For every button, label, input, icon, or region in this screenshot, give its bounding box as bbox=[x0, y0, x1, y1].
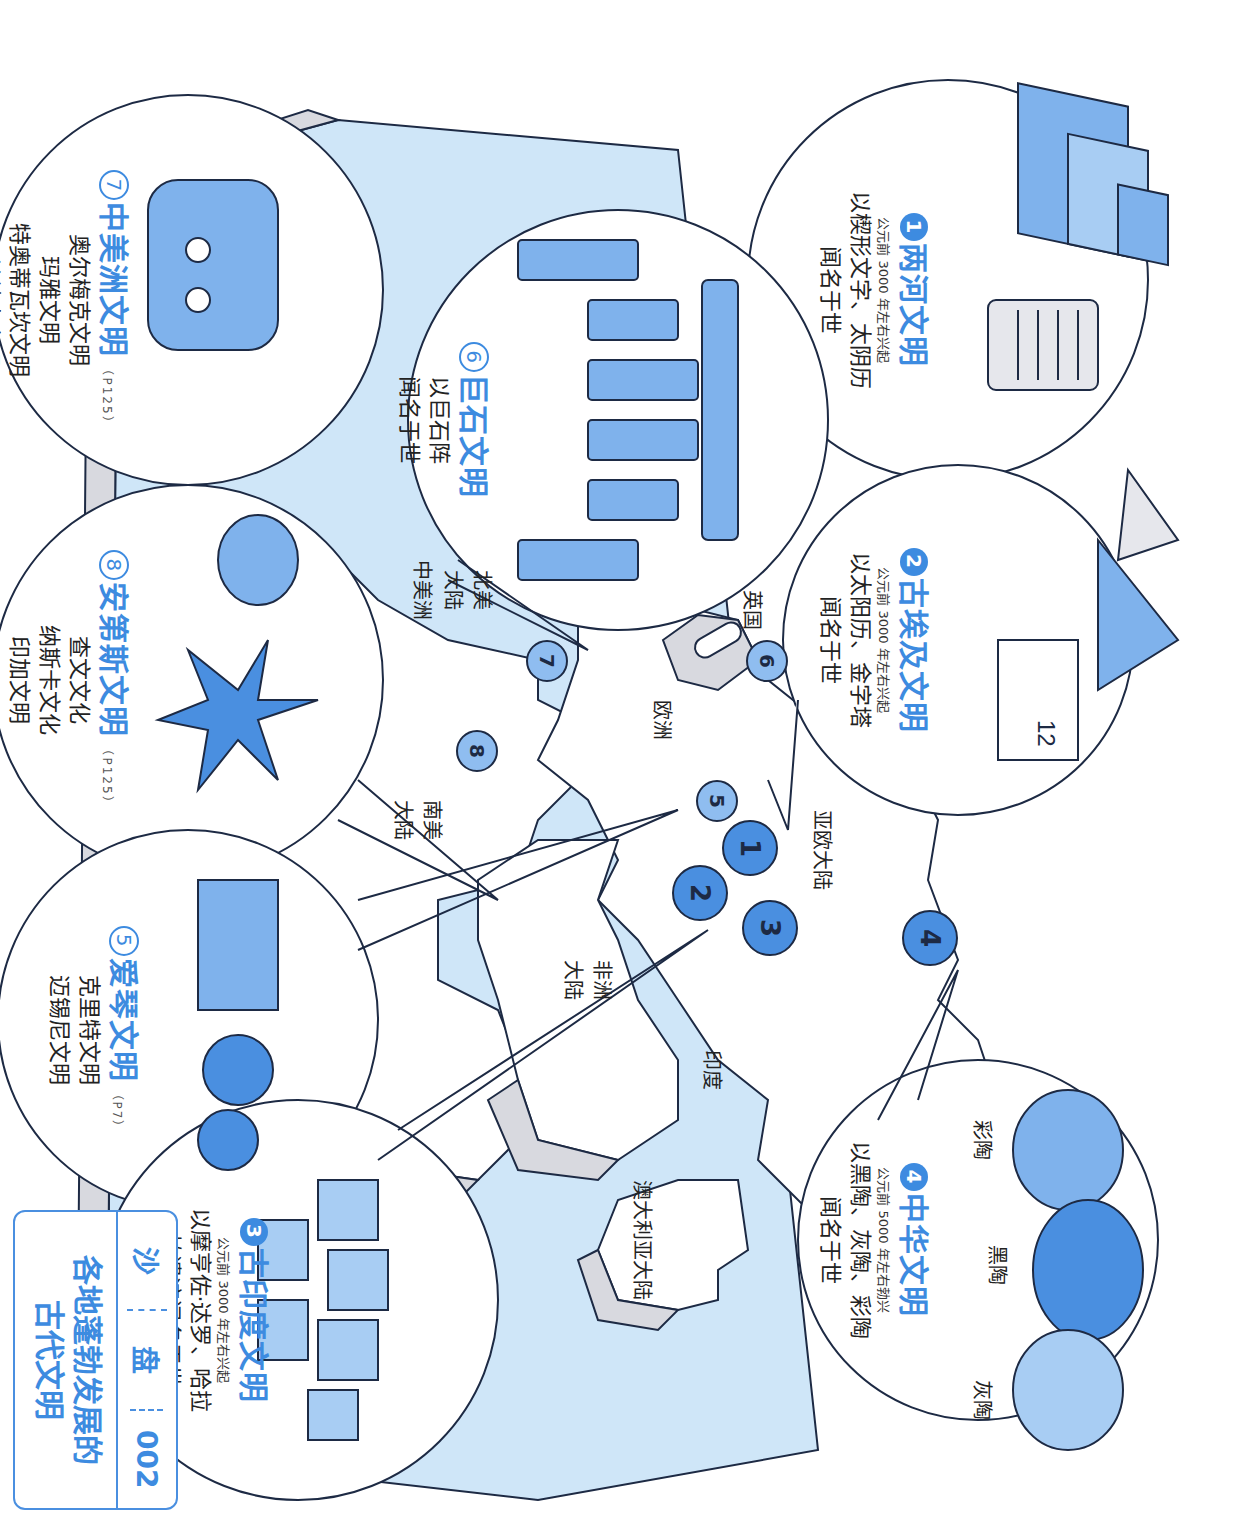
label-africa-line1: 非洲 bbox=[589, 960, 618, 1000]
civ-1-desc-1: 以楔形文字、太阴历 bbox=[845, 180, 875, 400]
civ-7-desc-3: 特奥蒂瓦坎文明 bbox=[4, 160, 34, 440]
civ-1-desc-2: 闻名于世 bbox=[815, 180, 845, 400]
label-sa-line1: 南美 bbox=[419, 800, 448, 840]
pottery-artwork bbox=[1013, 1090, 1143, 1450]
civ-3-desc-1: 以摩亨佐·达罗、哈拉 bbox=[185, 1160, 215, 1460]
svg-text:12: 12 bbox=[1033, 720, 1060, 747]
civ-8-title: 8安第斯文明（P125） bbox=[94, 540, 138, 820]
label-eurasia: 亚欧大陆 bbox=[809, 810, 838, 890]
series-number: 002 bbox=[131, 1409, 164, 1508]
civ-2-desc-2: 闻名于世 bbox=[815, 490, 845, 790]
civ-7-page-ref: （P125） bbox=[100, 363, 114, 429]
civ-4-title: 4中华文明 bbox=[894, 1090, 938, 1390]
label-na-line1: 北美 bbox=[469, 570, 498, 610]
label-central-america: 中美洲 bbox=[409, 560, 438, 620]
label-india: 印度 bbox=[699, 1050, 728, 1090]
rotated-page: 12 bbox=[0, 0, 1238, 1533]
label-australia: 澳大利亚大陆 bbox=[629, 1180, 658, 1300]
civ-5-block: 5爱琴文明（P7） 克里特文明 迈锡尼文明 bbox=[44, 900, 148, 1160]
civ-2-block: 2古埃及文明 公元前 3000 年左右兴起 以太阳历、金字塔 闻名于世 bbox=[815, 490, 938, 790]
civ-6-desc-1: 以巨石阵 bbox=[424, 320, 454, 520]
page-title: 各地蓬勃发展的 古代文明 bbox=[30, 1212, 116, 1508]
civ-1-block: 1两河文明 公元前 3000 年左右兴起 以楔形文字、太阴历 闻名于世 bbox=[815, 180, 938, 400]
title-card: 沙 盘 002 各地蓬勃发展的 古代文明 bbox=[13, 1210, 178, 1510]
civ-7-title: 7中美洲文明（P125） bbox=[94, 160, 138, 440]
series-char-1: 沙 bbox=[127, 1212, 167, 1309]
series-row: 沙 盘 002 bbox=[116, 1212, 176, 1508]
label-africa: 非洲大陆 bbox=[560, 960, 618, 1000]
label-na-line2: 大陆 bbox=[440, 570, 469, 610]
label-uk: 英国 bbox=[739, 590, 768, 630]
civ-2-desc-1: 以太阳历、金字塔 bbox=[845, 490, 875, 790]
map-pin-6[interactable]: 6 bbox=[746, 640, 788, 682]
civ-2-date: 公元前 3000 年左右兴起 bbox=[875, 490, 894, 790]
civ-4-date: 公元前 5000 年左右勃兴 bbox=[875, 1090, 894, 1390]
civ-4-block: 4中华文明 公元前 5000 年左右勃兴 以黑陶、灰陶、彩陶 闻名于世 bbox=[815, 1090, 938, 1390]
civ-6-number-icon: 6 bbox=[459, 342, 489, 372]
civ-2-number-icon: 2 bbox=[900, 548, 928, 576]
civ-6-title: 6巨石文明 bbox=[454, 320, 498, 520]
map-pin-2[interactable]: 2 bbox=[672, 865, 728, 921]
label-africa-line2: 大陆 bbox=[560, 960, 589, 1000]
civ-2-title: 2古埃及文明 bbox=[894, 490, 938, 790]
civ-4-desc-2: 闻名于世 bbox=[815, 1090, 845, 1390]
page-title-line2: 古代文明 bbox=[30, 1212, 68, 1508]
label-south-america: 南美大陆 bbox=[390, 800, 448, 840]
map-pin-4[interactable]: 4 bbox=[902, 910, 958, 966]
map-pin-8[interactable]: 8 bbox=[456, 730, 498, 772]
civ-5-desc-2: 迈锡尼文明 bbox=[44, 900, 74, 1160]
civ-7-block: 7中美洲文明（P125） 奥尔梅克文明 玛雅文明 特奥蒂瓦坎文明 阿兹特克文明 bbox=[0, 160, 138, 440]
map-pin-7[interactable]: 7 bbox=[526, 640, 568, 682]
map-pin-5[interactable]: 5 bbox=[696, 780, 738, 822]
label-sa-line2: 大陆 bbox=[390, 800, 419, 840]
civ-4-desc-1: 以黑陶、灰陶、彩陶 bbox=[845, 1090, 875, 1390]
civ-8-page-ref: （P125） bbox=[100, 743, 114, 809]
series-char-2: 盘 bbox=[127, 1309, 167, 1408]
pottery-label-painted: 彩陶 bbox=[969, 1120, 998, 1160]
civ-3-number-icon: 3 bbox=[240, 1218, 268, 1246]
civ-1-title: 1两河文明 bbox=[894, 180, 938, 400]
page-title-line1: 各地蓬勃发展的 bbox=[68, 1212, 106, 1508]
civ-8-block: 8安第斯文明（P125） 查文文化 纳斯卡文化 印加文明 bbox=[4, 540, 138, 820]
civ-1-number-icon: 1 bbox=[900, 213, 928, 241]
civ-7-number-icon: 7 bbox=[99, 170, 129, 200]
civ-5-title: 5爱琴文明（P7） bbox=[104, 900, 148, 1160]
civ-5-number-icon: 5 bbox=[109, 926, 139, 956]
civ-7-desc-1: 奥尔梅克文明 bbox=[64, 160, 94, 440]
olmec-head-artwork bbox=[148, 180, 278, 350]
civ-5-page-ref: （P7） bbox=[110, 1088, 124, 1135]
civ-7-desc-4: 阿兹特克文明 bbox=[0, 160, 4, 440]
civ-8-desc-1: 查文文化 bbox=[64, 540, 94, 820]
civ-8-desc-2: 纳斯卡文化 bbox=[34, 540, 64, 820]
civ-1-date: 公元前 3000 年左右兴起 bbox=[875, 180, 894, 400]
civ-6-block: 6巨石文明 以巨石阵 闻名于世 bbox=[394, 320, 498, 520]
civ-8-desc-3: 印加文明 bbox=[4, 540, 34, 820]
pottery-label-grey: 灰陶 bbox=[969, 1380, 998, 1420]
civ-4-number-icon: 4 bbox=[900, 1163, 928, 1191]
civ-3-date: 公元前 3000 年左右兴起 bbox=[215, 1160, 234, 1460]
civ-5-desc-1: 克里特文明 bbox=[74, 900, 104, 1160]
pottery-label-black: 黑陶 bbox=[984, 1245, 1013, 1285]
civ-6-desc-2: 闻名于世 bbox=[394, 320, 424, 520]
civ-8-number-icon: 8 bbox=[99, 550, 129, 580]
civ-3-title: 3古印度文明 bbox=[234, 1160, 278, 1460]
map-pin-3[interactable]: 3 bbox=[742, 900, 798, 956]
civ-7-desc-2: 玛雅文明 bbox=[34, 160, 64, 440]
map-pin-1[interactable]: 1 bbox=[722, 820, 778, 876]
label-north-america: 北美大陆 bbox=[440, 570, 498, 610]
label-europe: 欧洲 bbox=[649, 700, 678, 740]
